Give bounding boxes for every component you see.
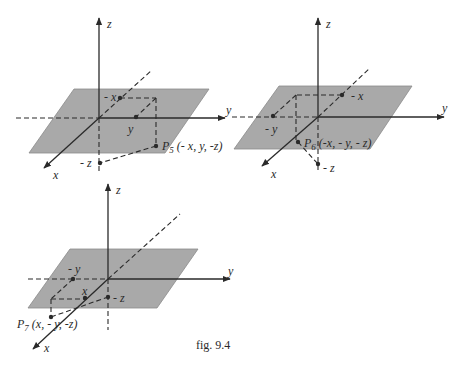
point-p5 bbox=[154, 144, 158, 148]
neg-x-label: - x bbox=[351, 89, 364, 103]
point-neg-z bbox=[98, 161, 102, 165]
pos-x-label: x bbox=[81, 284, 88, 298]
point-neg-x bbox=[118, 96, 122, 100]
point-label-p7: P7 (x, - y, -z) bbox=[16, 317, 78, 333]
diagram-octant-5: z y x - x y - z P5 (- x, y, -z) bbox=[16, 17, 232, 182]
neg-y-label: - y bbox=[265, 122, 278, 136]
neg-y-label: - y bbox=[68, 262, 81, 276]
point-neg-y bbox=[71, 277, 75, 281]
figure-canvas: z y x - x y - z P5 (- x, y, -z) z y x - … bbox=[0, 0, 464, 372]
point-neg-z bbox=[106, 295, 110, 299]
y-axis-label: y bbox=[441, 101, 448, 115]
point-neg-y bbox=[271, 114, 275, 118]
figure-caption: fig. 9.4 bbox=[196, 338, 230, 352]
pos-y-label: y bbox=[127, 122, 134, 136]
neg-x-label: - x bbox=[104, 90, 117, 104]
point-y bbox=[134, 115, 138, 119]
point-neg-z bbox=[316, 162, 320, 166]
neg-z-label: - z bbox=[323, 161, 335, 175]
diagram-octant-6: z y x - x - y - z P6 (-x, - y, - z) bbox=[232, 17, 448, 181]
z-axis-label: z bbox=[106, 17, 112, 31]
neg-z-label: - z bbox=[80, 156, 92, 170]
point-neg-x bbox=[340, 93, 344, 97]
x-axis-label: x bbox=[52, 168, 59, 182]
y-axis-label: y bbox=[225, 103, 232, 117]
diagram-octant-7: z y x - y x - z P7 (x, - y, -z) bbox=[16, 183, 234, 355]
x-axis-label: x bbox=[270, 167, 277, 181]
point-p6 bbox=[296, 140, 300, 144]
y-axis-label: y bbox=[227, 264, 234, 278]
z-axis-label: z bbox=[115, 183, 121, 197]
x-axis-label: x bbox=[43, 341, 50, 355]
neg-z-label: - z bbox=[113, 291, 125, 305]
z-axis-label: z bbox=[325, 17, 331, 31]
